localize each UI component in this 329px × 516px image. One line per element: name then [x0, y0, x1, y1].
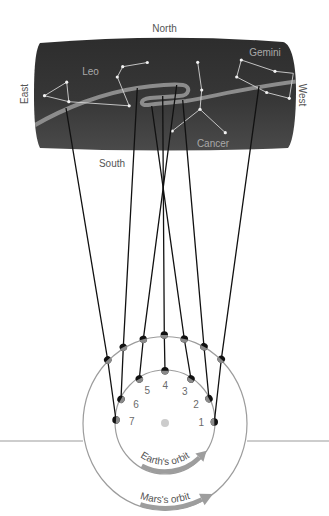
position-label-2: 2	[193, 399, 199, 410]
mars-retrograde-diagram: North South East West Leo	[0, 0, 329, 516]
west-label: West	[297, 84, 308, 107]
east-label: East	[19, 84, 30, 104]
mars-position-4	[161, 331, 168, 338]
mars-position-5	[139, 335, 148, 344]
earth-position-6	[116, 394, 126, 404]
earth-position-2	[204, 394, 214, 404]
position-label-4: 4	[163, 380, 169, 391]
position-label-7: 7	[129, 416, 135, 427]
leo-label: Leo	[82, 66, 99, 77]
position-label-3: 3	[182, 386, 188, 397]
earth-orbit-label: Earth's orbit	[139, 449, 191, 467]
position-label-1: 1	[199, 417, 205, 428]
sun	[161, 419, 169, 427]
position-label-5: 5	[145, 385, 151, 396]
sight-line-7	[66, 108, 116, 420]
earth-position-1	[211, 418, 219, 426]
mars-position-2	[199, 342, 209, 352]
earth-position-7	[112, 416, 120, 424]
position-label-6: 6	[133, 399, 139, 410]
earth-position-4	[161, 367, 168, 374]
mars-orbit-label: Mars's orbit	[139, 490, 191, 505]
south-label: South	[99, 158, 125, 169]
north-label: North	[152, 23, 176, 34]
mars-position-7	[102, 355, 112, 365]
cancer-label: Cancer	[197, 138, 230, 149]
mars-position-1	[216, 354, 226, 364]
mars-position-3	[180, 335, 189, 344]
gemini-label: Gemini	[249, 47, 281, 58]
